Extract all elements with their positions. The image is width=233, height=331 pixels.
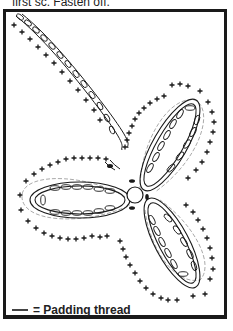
legend: = Padding thread xyxy=(12,303,131,317)
crochet-diagram xyxy=(0,0,233,331)
padding-thread-swatch xyxy=(12,309,28,311)
legend-label: = Padding thread xyxy=(33,303,131,317)
petal-left-sc xyxy=(18,156,110,242)
stem-sc xyxy=(12,23,103,123)
petal-lower-right-sc xyxy=(118,203,216,303)
petal-lower-right xyxy=(134,191,211,295)
petal-upper-right xyxy=(129,91,210,198)
petal-left xyxy=(22,179,130,219)
